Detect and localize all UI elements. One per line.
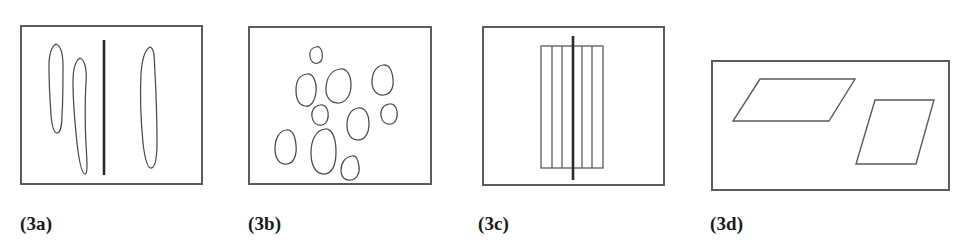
panel-3d-label: (3d) [710,214,743,233]
wide-flat-parallelogram [733,79,855,121]
blob-shape-1 [49,44,63,133]
panel-3a-label: (3a) [20,214,52,233]
panel-3b [248,26,432,185]
blob-shape-5 [312,105,328,125]
blob-shape-2 [296,74,316,106]
blob-shape-4 [372,65,393,95]
blob-shape-1 [310,47,323,64]
blob-shape-9 [311,129,336,174]
blob-shape-3 [141,47,157,168]
figure-3-panel-group: (3a) (3b) (3c) (3d) [0,0,956,245]
blob-shape-3 [326,69,351,103]
narrow-upright-parallelogram [856,100,934,164]
blob-shape-7 [347,108,369,140]
panel-3d-drawing [711,60,950,191]
panel-3d [711,60,950,191]
panel-3c-label: (3c) [478,214,509,233]
blob-shape-2 [73,58,87,174]
panel-3c [482,26,665,186]
panel-3b-label: (3b) [248,214,281,233]
blob-shape-8 [275,130,296,164]
panel-3b-drawing [248,26,432,185]
panel-3a-drawing [20,25,203,185]
panel-3c-drawing [482,26,665,186]
blob-shape-10 [341,156,359,180]
blob-shape-6 [381,104,397,124]
panel-3a [20,25,203,185]
